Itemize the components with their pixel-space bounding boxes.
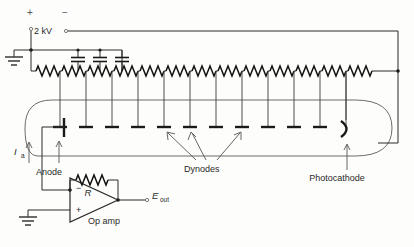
op-amp-inverting-sign: − (76, 183, 81, 193)
cap1-top-node (76, 48, 79, 51)
source-negative-terminal (64, 29, 67, 32)
op-amp-noninverting-sign: + (76, 205, 81, 215)
pmt-circuit-diagram: + − 2 kV (0, 0, 414, 247)
source-plus-sign: + (27, 7, 33, 18)
electrode-stems (60, 71, 346, 126)
op-amp-label: Op amp (88, 216, 120, 226)
ground-symbol-main (5, 57, 23, 65)
circuit-svg: + − 2 kV (0, 0, 414, 247)
cap2-top-node (98, 48, 101, 51)
ground-symbol-opamp (19, 217, 37, 225)
voltage-source (29, 27, 398, 143)
anode-current-label: I (14, 146, 17, 157)
anode-label: Anode (36, 167, 62, 177)
anode-current-subscript: a (21, 152, 25, 159)
source-positive-terminal (29, 27, 32, 30)
chain-right-node (396, 69, 400, 73)
source-minus-sign: − (62, 7, 68, 18)
photocathode-label: Photocathode (309, 173, 365, 183)
output-subscript: out (160, 196, 169, 203)
photocathode-pointer-arrow (344, 144, 350, 170)
source-voltage-label: 2 kV (34, 26, 52, 36)
anode-pointer-arrow (56, 141, 62, 163)
output-terminal (145, 198, 148, 201)
output-label: E (152, 190, 159, 201)
feedback-resistor-label: R (85, 187, 92, 198)
dynodes-label: Dynodes (184, 164, 220, 174)
photocathode-electrode (341, 71, 347, 137)
anode-electrode (42, 118, 70, 190)
